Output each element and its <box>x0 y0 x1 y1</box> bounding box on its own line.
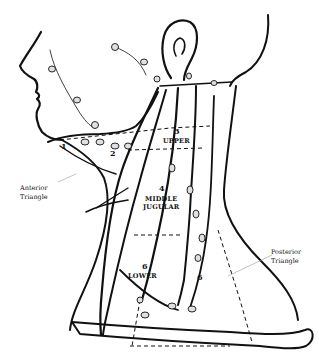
back-of-head <box>230 15 268 86</box>
level-6-lower-name: LOWER <box>128 273 157 280</box>
neck-lymph-diagram <box>0 0 319 364</box>
ear <box>162 21 197 80</box>
scm-anterior <box>100 88 158 335</box>
level-4-name-line1: MIDDLE <box>143 196 179 203</box>
posterior-label-line1: Posterior <box>271 249 301 256</box>
level-3-label: 3 <box>174 127 180 135</box>
face-profile <box>20 32 62 140</box>
level-4-label: 4 <box>159 184 165 192</box>
level-2-label: 2 <box>110 149 116 157</box>
level-6-posterior-label: 6 <box>197 273 203 281</box>
jaw-line <box>48 92 158 142</box>
level-3-name: UPPER <box>163 138 190 145</box>
level-1-label: 1 <box>61 142 67 150</box>
anterior-label-line1: Anterior <box>20 185 48 192</box>
anterior-triangle-label: Anterior Triangle <box>20 185 48 200</box>
level-6-lower-label: 6 <box>142 262 148 270</box>
boundary-upper-middle <box>128 148 204 150</box>
anterior-label-line2: Triangle <box>20 194 48 201</box>
level-4-name: MIDDLE JUGULAR <box>143 196 179 210</box>
level-4-name-line2: JUGULAR <box>143 204 179 211</box>
posterior-triangle-label: Posterior Triangle <box>271 249 301 264</box>
posterior-label-line2: Triangle <box>271 258 301 265</box>
clavicle <box>72 322 313 348</box>
